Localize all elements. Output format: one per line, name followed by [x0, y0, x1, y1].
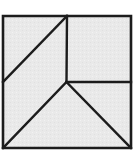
- tangram-diagram: [0, 0, 139, 156]
- vertical-divider-line: [67, 16, 68, 82]
- piece-face-top-right-square: [67, 16, 132, 82]
- figure-canvas: [0, 0, 139, 156]
